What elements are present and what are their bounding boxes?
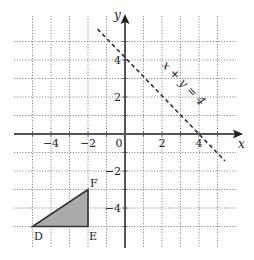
triangle-def: [33, 190, 89, 227]
coordinate-plane: x + y = 4 x y −4 −2 0 2 4 4 2 −2 −4 D E …: [0, 0, 254, 260]
vertex-label-d: D: [34, 230, 43, 243]
x-tick-label: −2: [80, 137, 96, 150]
x-tick-label: 2: [159, 137, 166, 150]
y-tick-label: −2: [105, 165, 121, 178]
x-axis-label: x: [238, 137, 245, 151]
origin-label: 0: [116, 137, 123, 150]
x-tick-label: 4: [196, 137, 203, 150]
vertex-label-e: E: [89, 230, 97, 243]
y-tick-label: −4: [105, 202, 121, 215]
axes: [14, 14, 243, 248]
vertex-label-f: F: [90, 177, 98, 190]
y-axis-label: y: [113, 8, 121, 22]
x-tick-label: −4: [43, 137, 59, 150]
y-tick-label: 4: [114, 54, 121, 67]
y-tick-label: 2: [114, 91, 121, 104]
